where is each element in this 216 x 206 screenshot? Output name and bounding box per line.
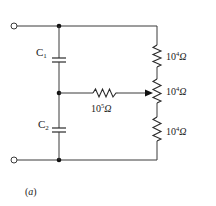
- series-resistor-label: 105Ω: [91, 102, 111, 114]
- top-resistor: [153, 45, 161, 67]
- potentiometer-label: 104Ω: [166, 85, 186, 97]
- bottom-resistor-label: 104Ω: [166, 125, 186, 137]
- bottom-terminal: [11, 157, 17, 163]
- figure-caption: (a): [25, 186, 37, 198]
- wiper-arrow-icon: [145, 90, 153, 97]
- bottom-resistor: [153, 117, 161, 141]
- c1-label: C1: [36, 46, 47, 60]
- top-terminal: [11, 23, 17, 29]
- circuit-diagram: C1 C2 105Ω 104Ω 104Ω 104Ω (a): [0, 0, 216, 206]
- c2-label: C2: [38, 118, 49, 132]
- series-resistor: [93, 89, 118, 97]
- top-resistor-label: 104Ω: [166, 50, 186, 62]
- potentiometer-resistor: [153, 79, 161, 103]
